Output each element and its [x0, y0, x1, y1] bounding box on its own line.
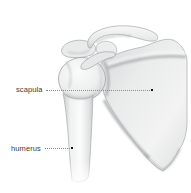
humerus-leader-endpoint-dot	[71, 147, 73, 149]
shaft-fade-overlay	[52, 160, 104, 193]
scapula-label: scapula	[16, 85, 43, 94]
scapula-leader-line	[46, 90, 150, 91]
humerus-label: humerus	[11, 144, 41, 153]
shoulder-anatomy-figure: scapula humerus	[0, 0, 191, 193]
scapula-leader-endpoint-dot	[151, 89, 153, 91]
shoulder-illustration	[0, 0, 191, 193]
scapula-bone	[100, 39, 187, 171]
humerus-leader-line	[45, 148, 70, 149]
